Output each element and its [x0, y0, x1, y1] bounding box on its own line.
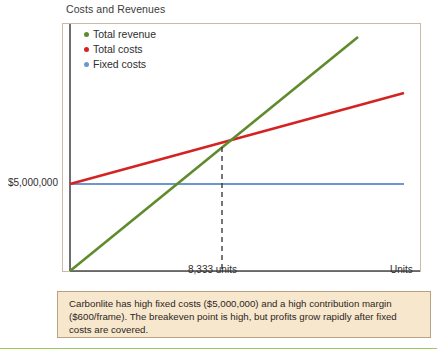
page-title: Costs and Revenues	[66, 3, 165, 15]
legend-item-total-revenue: Total revenue	[84, 28, 156, 41]
legend-dot-costs-icon	[84, 47, 89, 52]
breakeven-chart-figure: Costs and Revenues Total revenue Total c…	[0, 0, 437, 359]
x-axis-tick-label-breakeven: 8,333 units	[188, 264, 237, 275]
legend-dot-fixed-icon	[84, 62, 89, 67]
x-axis-title-units: Units	[390, 264, 413, 275]
legend-label-total-revenue: Total revenue	[93, 28, 156, 41]
legend-item-total-costs: Total costs	[84, 43, 156, 56]
bottom-divider	[0, 348, 437, 349]
y-axis-tick-label-fixed-costs: $5,000,000	[8, 177, 58, 188]
legend-label-fixed-costs: Fixed costs	[93, 58, 146, 71]
legend-dot-revenue-icon	[84, 32, 89, 37]
chart-legend: Total revenue Total costs Fixed costs	[84, 28, 156, 71]
caption-text: Carbonlite has high fixed costs ($5,000,…	[69, 297, 421, 337]
legend-label-total-costs: Total costs	[93, 43, 143, 56]
legend-item-fixed-costs: Fixed costs	[84, 58, 156, 71]
caption-box: Carbonlite has high fixed costs ($5,000,…	[57, 291, 431, 338]
